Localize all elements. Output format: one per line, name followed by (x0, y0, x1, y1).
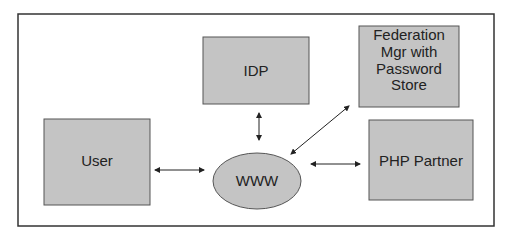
node-www: WWW (213, 153, 301, 209)
node-idp: IDP (203, 37, 309, 104)
node-federation-label-3: Password (376, 60, 442, 77)
node-php-label: PHP Partner (379, 152, 463, 169)
node-idp-label: IDP (243, 62, 268, 79)
node-federation-label-1: Federation (373, 26, 445, 43)
node-www-label: WWW (236, 172, 279, 189)
node-user: User (44, 119, 150, 205)
node-user-label: User (81, 152, 113, 169)
diagram-canvas: IDP Federation Mgr with Password Store U… (0, 0, 508, 236)
node-federation-mgr: Federation Mgr with Password Store (359, 26, 459, 107)
node-federation-label-4: Store (391, 76, 427, 93)
node-federation-label-2: Mgr with (381, 43, 438, 60)
node-php-partner: PHP Partner (369, 120, 473, 200)
